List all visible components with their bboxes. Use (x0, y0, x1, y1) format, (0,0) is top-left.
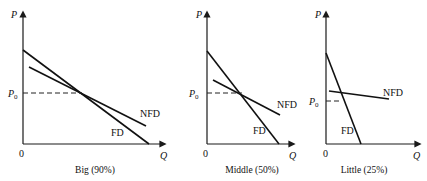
panel-big: P P0 NFD FD 0 Q Big (90%) (7, 9, 168, 176)
y-axis-label: P (314, 9, 321, 20)
x-axis-label: Q (160, 150, 168, 161)
x-axis-label: Q (289, 150, 297, 161)
p0-label: P0 (7, 88, 18, 101)
panel-caption: Middle (50%) (225, 165, 279, 176)
p0-label: P0 (308, 96, 319, 109)
fd-label: FD (111, 127, 124, 138)
panel-caption: Big (90%) (75, 165, 115, 176)
panel-middle: P P0 NFD FD 0 Q Middle (50%) (188, 9, 297, 176)
p0-label: P0 (188, 88, 199, 101)
fd-curve (207, 51, 279, 144)
demand-curves-diagram: P P0 NFD FD 0 Q Big (90%) P P0 NFD FD 0 … (0, 0, 427, 181)
fd-label: FD (341, 125, 354, 136)
y-axis-label: P (195, 9, 202, 20)
nfd-curve (329, 91, 389, 99)
nfd-label: NFD (140, 108, 160, 119)
x-axis-label: Q (413, 150, 421, 161)
origin-label: 0 (19, 148, 24, 159)
origin-label: 0 (203, 148, 208, 159)
nfd-curve (213, 80, 280, 115)
fd-label: FD (253, 125, 266, 136)
nfd-label: NFD (383, 87, 403, 98)
nfd-curve (29, 67, 146, 126)
y-axis-label: P (10, 9, 17, 20)
panel-little: P P0 NFD FD 0 Q Little (25%) (308, 9, 421, 176)
panel-caption: Little (25%) (341, 165, 388, 176)
fd-curve (23, 50, 149, 144)
origin-label: 0 (323, 148, 328, 159)
nfd-label: NFD (277, 99, 297, 110)
